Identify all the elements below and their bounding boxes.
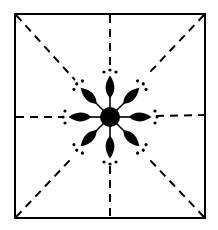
- diagonal-top-right: [150, 15, 204, 72]
- midline-right: [156, 115, 204, 116]
- diagonal-top-left: [16, 15, 75, 80]
- diagonal-bottom-left: [16, 160, 70, 217]
- mandala-diagram: [0, 0, 218, 230]
- diagonal-bottom-right: [148, 158, 204, 217]
- center-motif: [61, 68, 158, 165]
- petals: [70, 77, 150, 157]
